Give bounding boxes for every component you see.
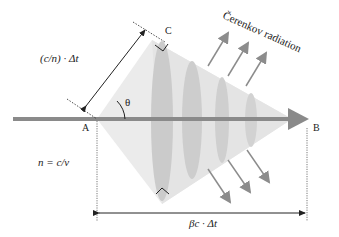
slant-length-label: (c/n) · Δt xyxy=(40,52,79,65)
cerenkov-radiation-label: Čerenkov radiation xyxy=(221,9,304,55)
beam-arrowhead xyxy=(288,108,309,130)
point-a-label: A xyxy=(82,122,90,133)
radiation-arrow xyxy=(246,53,266,86)
beam-length-label: βc · Δt xyxy=(188,217,218,229)
radiation-arrow xyxy=(228,160,250,192)
radiation-arrow xyxy=(208,33,228,66)
radiation-arrow xyxy=(247,150,269,182)
theta-label: θ xyxy=(125,96,130,108)
radiation-arrow xyxy=(208,169,230,202)
refractive-index-label: n = c/v xyxy=(38,156,69,168)
point-b-label: B xyxy=(313,122,320,133)
cherenkov-diagram: Čerenkov radiation (c/n) · Δt θ A B C n … xyxy=(0,0,339,237)
slant-extension-bottom xyxy=(67,99,97,119)
radiation-arrow xyxy=(228,43,248,76)
point-c-label: C xyxy=(165,25,172,36)
